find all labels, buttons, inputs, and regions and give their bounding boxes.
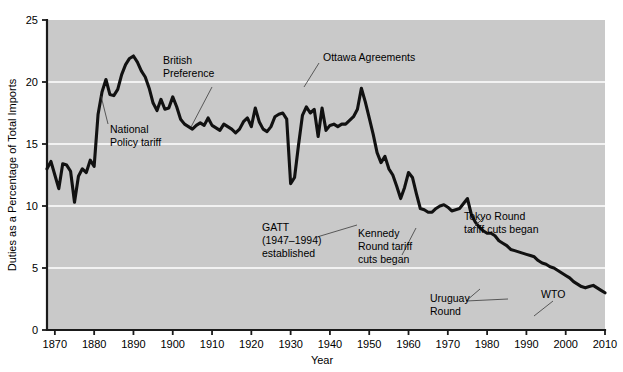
x-tick-label-1900: 1900 <box>161 338 185 350</box>
annotation-gatt-line3: established <box>262 247 315 259</box>
x-tick-label-1950: 1950 <box>357 338 381 350</box>
x-axis-title: Year <box>311 354 334 366</box>
annotation-kennedy-line1: Kennedy <box>358 227 400 239</box>
y-tick-label-0: 0 <box>32 324 38 336</box>
x-tick-label-2000: 2000 <box>553 338 577 350</box>
plot-background <box>47 20 605 330</box>
y-tick-label-20: 20 <box>26 76 38 88</box>
annotation-national-policy-line1: National <box>110 123 149 135</box>
x-tick-label-1880: 1880 <box>82 338 106 350</box>
y-tick-label-5: 5 <box>32 262 38 274</box>
annotation-british-preference-line2: Preference <box>163 67 215 79</box>
x-tick-label-1940: 1940 <box>318 338 342 350</box>
x-tick-label-1930: 1930 <box>278 338 302 350</box>
x-tick-label-1970: 1970 <box>436 338 460 350</box>
y-tick-label-10: 10 <box>26 200 38 212</box>
y-axis-tick-labels: 0510152025 <box>26 14 38 336</box>
y-tick-label-15: 15 <box>26 138 38 150</box>
annotation-gatt-line2: (1947–1994) <box>262 234 322 246</box>
annotation-wto: WTO <box>541 288 565 300</box>
x-tick-label-1960: 1960 <box>396 338 420 350</box>
y-axis-title: Duties as a Percentage of Total Imports <box>6 78 18 271</box>
chart-figure: 0510152025 18701880189019001910192019301… <box>0 0 623 372</box>
x-tick-label-1870: 1870 <box>43 338 67 350</box>
x-tick-label-1980: 1980 <box>475 338 499 350</box>
annotation-uruguay-line1: Uruguay <box>430 292 470 304</box>
tariff-line-chart: 0510152025 18701880189019001910192019301… <box>0 0 623 372</box>
x-tick-label-1990: 1990 <box>514 338 538 350</box>
x-axis-tick-labels: 1870188018901900191019201930194019501960… <box>43 338 618 350</box>
x-tick-label-1890: 1890 <box>121 338 145 350</box>
annotation-british-preference-line1: British <box>163 54 192 66</box>
annotation-gatt-line1: GATT <box>262 221 290 233</box>
annotation-national-policy-line2: Policy tariff <box>110 136 161 148</box>
x-tick-label-1910: 1910 <box>200 338 224 350</box>
annotation-tokyo-line1: Tokyo Round <box>464 210 525 222</box>
annotation-tokyo-line2: tariff cuts began <box>464 223 539 235</box>
annotation-uruguay-line2: Round <box>430 305 461 317</box>
annotation-kennedy-line3: cuts began <box>358 253 410 265</box>
y-tick-label-25: 25 <box>26 14 38 26</box>
x-tick-label-2010: 2010 <box>593 338 617 350</box>
annotation-ottawa: Ottawa Agreements <box>323 51 415 63</box>
annotation-kennedy-line2: Round tariff <box>358 240 412 252</box>
x-tick-label-1920: 1920 <box>239 338 263 350</box>
